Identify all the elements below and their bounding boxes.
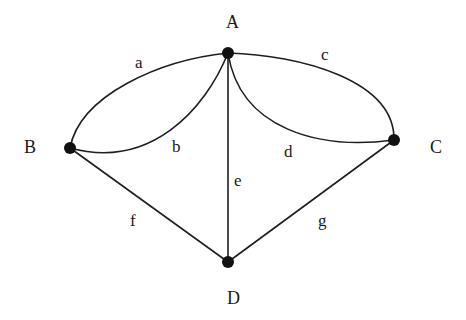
node-a [222,47,234,59]
edge-label-g: g [318,211,327,230]
node-label-d: D [227,288,240,308]
edge-label-b: b [172,137,181,156]
node-b [64,142,76,154]
edge-label-e: e [234,171,242,190]
edge-label-a: a [135,53,143,72]
graph-diagram: A B C D a b c d e f g [0,0,466,320]
edge-a [70,53,228,148]
edge-d [228,53,394,142]
node-label-a: A [226,12,239,32]
node-d [222,256,234,268]
edge-label-f: f [130,211,136,230]
edge-g [228,140,394,262]
edge-b [70,53,228,153]
edge-label-c: c [321,45,329,64]
edge-label-d: d [284,142,293,161]
edge-f [70,148,228,262]
node-label-b: B [24,137,36,157]
node-label-c: C [430,137,442,157]
node-c [388,134,400,146]
edge-c [228,53,394,140]
